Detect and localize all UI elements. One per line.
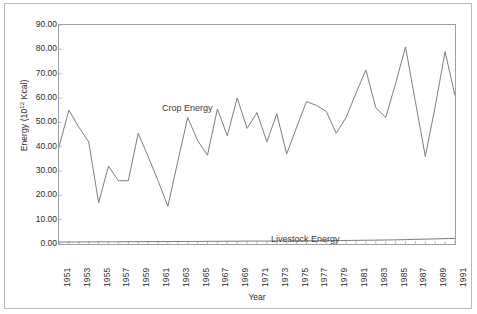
x-axis-tick-label: 1973 <box>280 268 290 287</box>
x-axis-tick-label: 1977 <box>319 268 329 287</box>
x-axis-tick-label: 1979 <box>339 268 349 287</box>
x-axis-tick-label: 1951 <box>62 268 72 287</box>
y-axis-tick-label: 0.00 <box>15 239 57 248</box>
y-axis-tick-label: 10.00 <box>15 215 57 224</box>
x-axis-tick-label: 1965 <box>201 268 211 287</box>
x-axis-tick-label: 1963 <box>181 268 191 287</box>
crop-energy-annotation: Crop Energy <box>162 103 213 113</box>
y-axis-tick-label: 80.00 <box>15 44 57 53</box>
x-axis-tick-label: 1959 <box>141 268 151 287</box>
y-axis-tick-label: 20.00 <box>15 190 57 199</box>
y-axis-tick-label: 60.00 <box>15 93 57 102</box>
x-axis-tick-label: 1967 <box>220 268 230 287</box>
x-axis-tick-label: 1961 <box>161 268 171 287</box>
y-axis-tick-label: 90.00 <box>15 20 57 29</box>
x-axis-tick-label: 1975 <box>300 268 310 287</box>
y-axis-tick-label: 40.00 <box>15 142 57 151</box>
y-axis-tick-label: 70.00 <box>15 69 57 78</box>
x-axis-tick-label: 1989 <box>438 268 448 287</box>
x-axis-tick-label: 1969 <box>240 268 250 287</box>
livestock-energy-annotation: Livestock Energy <box>271 234 340 244</box>
y-axis-tick-labels: 90.0080.0070.0060.0050.0040.0030.0020.00… <box>9 4 57 308</box>
x-axis-tick-label: 1985 <box>399 268 409 287</box>
x-axis-tick-label: 1953 <box>82 268 92 287</box>
series-canvas <box>59 25 455 244</box>
y-axis-tick-label: 30.00 <box>15 166 57 175</box>
x-axis-tick-labels: 1951195319551957195919611963196519671969… <box>58 245 458 291</box>
x-axis-tick-label: 1957 <box>121 268 131 287</box>
plot-area: Crop Energy Livestock Energy <box>58 24 456 245</box>
x-axis-tick-label: 1983 <box>379 268 389 287</box>
x-axis-tick-label: 1991 <box>458 268 468 287</box>
x-axis-tick-label: 1971 <box>260 268 270 287</box>
chart-figure: Energy (1012 Kcal) 90.0080.0070.0060.005… <box>4 3 472 309</box>
x-axis-tick-label: 1955 <box>102 268 112 287</box>
series-line-crop-energy <box>59 47 455 206</box>
x-axis-tick-label: 1987 <box>418 268 428 287</box>
y-axis-tick-label: 50.00 <box>15 117 57 126</box>
x-axis-title: Year <box>58 292 456 302</box>
x-axis-tick-label: 1981 <box>359 268 369 287</box>
